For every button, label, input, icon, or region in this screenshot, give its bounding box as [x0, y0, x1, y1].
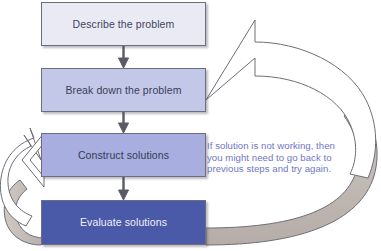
- feedback-annotation-text: If solution is not working, then you mig…: [207, 140, 357, 175]
- annotations-layer: If solution is not working, then you mig…: [0, 0, 381, 251]
- annotation-line-1: If solution is not working, then: [207, 140, 357, 152]
- annotation-line-3: previous steps and try again.: [207, 163, 357, 175]
- annotation-line-2: you might need to go back to: [207, 152, 357, 164]
- diagram-canvas: Describe the problem Break down the prob…: [0, 0, 381, 251]
